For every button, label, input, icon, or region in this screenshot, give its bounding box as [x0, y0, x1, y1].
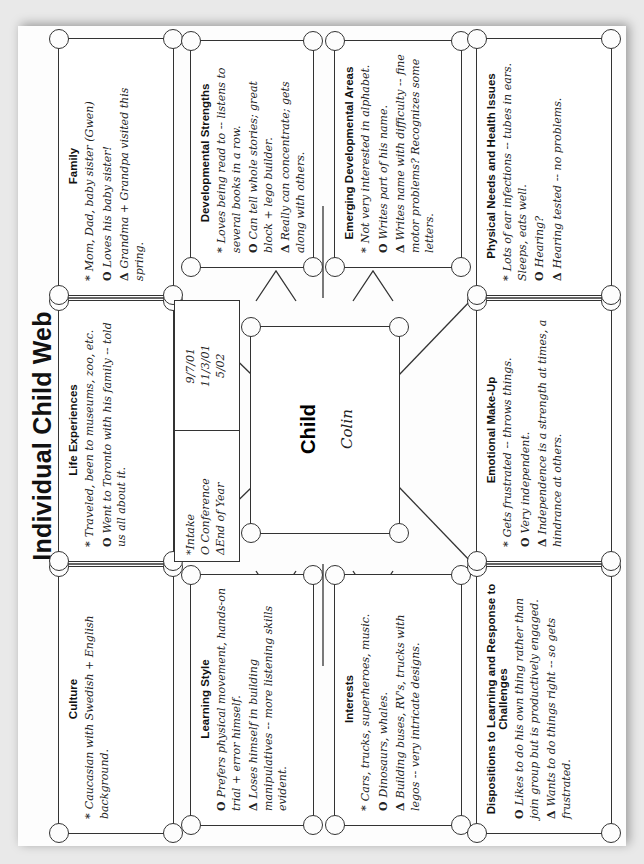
emotional-makeup-note: ΔIndependence is a strength at times, a … — [536, 313, 565, 547]
family-box: Family *Mom, Dad, baby sister (Gwen) OLo… — [58, 38, 174, 296]
child-heading: Child — [297, 339, 320, 519]
developmental-strengths-note: ΔReally can concentrate; gets along with… — [279, 53, 308, 253]
life-experiences-box: Life Experiences *Traveled, been to muse… — [58, 300, 174, 562]
culture-heading: Culture — [67, 579, 79, 819]
emotional-makeup-box: Emotional Make-Up *Gets frustrated -- th… — [476, 300, 612, 562]
interests-heading: Interests — [343, 587, 355, 811]
dispositions-heading: Dispositions to Learning and Response to… — [485, 579, 509, 819]
interests-note: *Cars, trucks, superheroes, music. — [359, 587, 374, 811]
learning-style-note: ΔLoses himself in building manipulatives… — [247, 587, 291, 811]
emotional-makeup-note: OVery independent. — [519, 313, 534, 547]
dispositions-note: OLikes to do his own thing rather than j… — [513, 579, 542, 819]
interests-note: ΔBuilding buses, RV's, trucks with legos… — [394, 587, 423, 811]
interests-note: ODinosaurs, whales. — [377, 587, 392, 811]
emotional-makeup-heading: Emotional Make-Up — [485, 313, 497, 547]
culture-note: *Caucasian with Swedish + English backgr… — [83, 579, 112, 819]
physical-needs-note: ΔHearing tested -- no problems. — [551, 51, 566, 281]
physical-needs-note: OHearing? — [533, 51, 548, 281]
life-experiences-note: OWent to Toronto with his family -- told… — [101, 313, 130, 547]
child-name: Colin — [338, 339, 356, 519]
learning-style-box: Learning Style OPrefers physical movemen… — [190, 574, 314, 826]
learning-style-heading: Learning Style — [199, 587, 211, 811]
family-note: *Mom, Dad, baby sister (Gwen) — [83, 51, 98, 281]
life-experiences-heading: Life Experiences — [67, 313, 79, 547]
developmental-strengths-heading: Developmental Strengths — [199, 53, 211, 253]
physical-needs-note: *Lots of ear infections -- tubes in ears… — [501, 51, 530, 281]
developmental-strengths-note: OCan tell whole stories; great block + l… — [247, 53, 276, 253]
emotional-makeup-note: *Gets frustrated -- throws things. — [501, 313, 516, 547]
rotated-page-stage: Individual Child Web Culture *Cau — [0, 0, 644, 864]
learning-style-note: OPrefers physical movement, hands-on tri… — [215, 587, 244, 811]
assessment-dates-legend: *Intake O Conference ΔEnd of Year 9/7/01… — [174, 300, 240, 562]
culture-box: Culture *Caucasian with Swedish + Englis… — [58, 566, 174, 834]
legend-labels: *Intake O Conference ΔEnd of Year — [175, 432, 239, 562]
family-heading: Family — [67, 51, 79, 281]
child-web-worksheet: Individual Child Web Culture *Cau — [18, 26, 626, 846]
dispositions-note: ΔWants to do things right -- so gets fru… — [545, 579, 574, 819]
developmental-strengths-note: *Loves being read to -- listens to sever… — [215, 53, 244, 253]
life-experiences-note: *Traveled, been to museums, zoo, etc. — [83, 313, 98, 547]
physical-needs-box: Physical Needs and Health Issues *Lots o… — [476, 38, 612, 296]
interests-box: Interests *Cars, trucks, superheroes, mu… — [334, 574, 462, 826]
physical-needs-heading: Physical Needs and Health Issues — [485, 51, 497, 281]
family-note: OLoves his baby sister! — [101, 51, 116, 281]
emerging-developmental-areas-box: Emerging Developmental Areas *Not very i… — [334, 40, 462, 268]
emerging-developmental-areas-heading: Emerging Developmental Areas — [343, 53, 355, 253]
developmental-strengths-box: Developmental Strengths *Loves being rea… — [190, 40, 314, 268]
emerging-areas-note: OWrites part of his name. — [377, 53, 392, 253]
child-box: Child Colin — [250, 326, 400, 534]
emerging-areas-note: *Not very interested in alphabet. — [359, 53, 374, 253]
family-note: ΔGrandma + Grandpa visited this spring. — [118, 51, 147, 281]
emerging-areas-note: ΔWrites name with difficulty -- fine mot… — [394, 53, 438, 253]
page-title: Individual Child Web — [28, 26, 57, 846]
legend-dates: 9/7/01 11/3/01 5/02 — [175, 301, 239, 432]
dispositions-box: Dispositions to Learning and Response to… — [476, 566, 612, 834]
